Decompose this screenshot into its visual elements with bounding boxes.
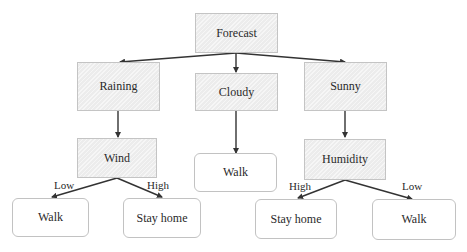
edge-label-humidity-low: Low — [402, 180, 422, 192]
node-humidity-high-stay-home-label: Stay home — [271, 212, 322, 227]
node-wind-low-walk: Walk — [12, 198, 89, 237]
node-cloudy-walk: Walk — [194, 153, 277, 192]
node-humidity-low-walk: Walk — [372, 199, 456, 240]
node-sunny: Sunny — [304, 62, 387, 111]
node-cloudy-walk-label: Walk — [223, 165, 248, 180]
node-wind-high-stay-home: Stay home — [123, 198, 201, 238]
node-cloudy-label: Cloudy — [219, 85, 254, 100]
edge-label-humidity-high: High — [289, 180, 311, 192]
edge-forecast-raining — [120, 53, 236, 62]
node-sunny-label: Sunny — [330, 79, 361, 94]
node-humidity: Humidity — [304, 139, 386, 180]
edge-label-wind-high: High — [147, 179, 169, 191]
node-humidity-low-walk-label: Walk — [401, 212, 426, 227]
node-raining: Raining — [77, 62, 160, 111]
node-humidity-label: Humidity — [322, 152, 368, 167]
node-forecast-label: Forecast — [216, 26, 257, 41]
edge-forecast-sunny — [236, 53, 345, 62]
node-wind-label: Wind — [104, 151, 130, 166]
node-wind: Wind — [77, 138, 157, 178]
node-wind-low-walk-label: Walk — [38, 210, 63, 225]
node-wind-high-stay-home-label: Stay home — [137, 211, 188, 226]
node-humidity-high-stay-home: Stay home — [255, 199, 337, 239]
node-raining-label: Raining — [100, 79, 138, 94]
node-forecast: Forecast — [195, 13, 278, 53]
decision-tree-diagram: Forecast Raining Cloudy Sunny Wind Walk … — [0, 0, 467, 252]
edge-label-wind-low: Low — [54, 179, 74, 191]
node-cloudy: Cloudy — [195, 73, 278, 111]
